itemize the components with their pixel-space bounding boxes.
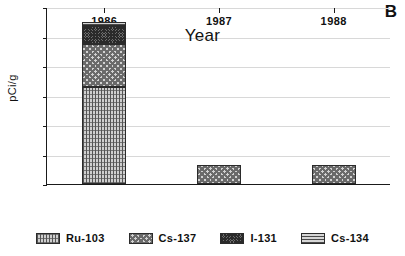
chart-figure: B pCi/g 00.20.40.60.811.2198619871988 Ru…: [0, 0, 405, 256]
y-axis-tick: [43, 67, 47, 68]
bar-segment-ru-103[interactable]: [82, 87, 126, 184]
legend-item: I-131: [220, 232, 277, 244]
legend-swatch-cs-137: [129, 233, 153, 244]
y-axis-tick: [43, 126, 47, 127]
bar-segment-cs-137[interactable]: [82, 44, 126, 87]
bar-segment-cs-137[interactable]: [197, 165, 241, 184]
legend-swatch-i-131: [220, 233, 244, 244]
x-axis-label: Year: [0, 26, 405, 46]
legend-item: Cs-137: [129, 232, 197, 244]
x-axis-tick: [104, 8, 105, 13]
bar-1987[interactable]: [197, 165, 241, 184]
y-axis-tick: [43, 97, 47, 98]
x-axis-tick: [334, 8, 335, 13]
y-axis-label: pCi/g: [6, 74, 18, 102]
legend-swatch-ru-103: [36, 233, 60, 244]
bar-1986[interactable]: [82, 22, 126, 184]
x-axis-tick: [219, 8, 220, 13]
chart-legend: Ru-103 Cs-137 I-131 Cs-134: [0, 232, 405, 244]
legend-label-i-131: I-131: [250, 232, 277, 244]
bar-1988[interactable]: [312, 165, 356, 184]
legend-swatch-cs-134: [301, 233, 325, 244]
bar-segment-cs-137[interactable]: [312, 165, 356, 184]
y-axis-tick: [43, 185, 47, 186]
legend-item: Cs-134: [301, 232, 369, 244]
legend-label-ru-103: Ru-103: [66, 232, 104, 244]
y-axis-tick: [43, 8, 47, 9]
legend-label-cs-137: Cs-137: [159, 232, 197, 244]
legend-item: Ru-103: [36, 232, 104, 244]
legend-label-cs-134: Cs-134: [331, 232, 369, 244]
y-axis-tick: [43, 156, 47, 157]
